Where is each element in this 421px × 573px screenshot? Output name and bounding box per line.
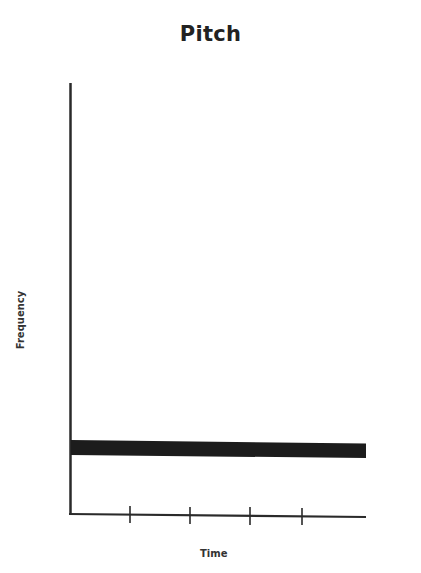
pitch-band bbox=[71, 440, 366, 458]
plot-area bbox=[0, 0, 421, 573]
x-axis bbox=[69, 514, 366, 517]
y-axis-label: Frequency bbox=[15, 291, 26, 350]
x-axis-label: Time bbox=[200, 548, 227, 559]
